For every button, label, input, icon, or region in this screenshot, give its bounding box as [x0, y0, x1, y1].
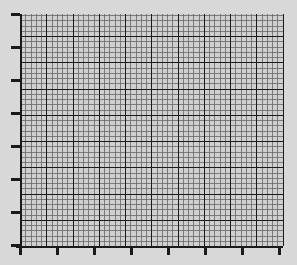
- figure-canvas: [0, 0, 297, 265]
- plot-svg: [0, 0, 297, 265]
